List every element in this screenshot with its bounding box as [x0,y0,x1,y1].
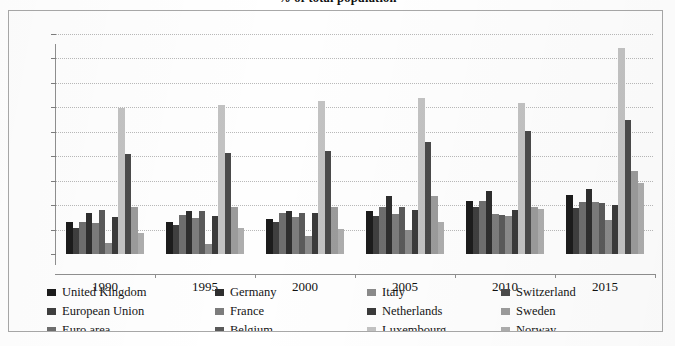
legend-swatch-icon [215,289,224,296]
y-tick-mark [51,205,56,206]
gridline [55,58,653,59]
legend-item[interactable]: Netherlands [367,302,501,321]
legend-swatch-icon [367,327,376,332]
gridline [55,107,653,108]
gridline [55,205,653,206]
legend-swatch-icon [501,289,510,296]
bar [338,229,345,254]
legend-item[interactable]: Norway [501,321,651,332]
legend-swatch-icon [47,327,56,332]
legend-swatch-icon [47,308,56,315]
figure-frame: 051015202530354045 199019952000200520102… [8,10,663,332]
bar [438,222,445,254]
legend-item[interactable]: Euro area [47,321,215,332]
legend-item[interactable]: Italy [367,283,501,302]
legend-label: Germany [230,286,277,299]
bar-group [66,34,144,254]
legend-item[interactable]: France [215,302,367,321]
legend-label: Netherlands [382,305,442,318]
plot-inner: 051015202530354045 199019952000200520102… [55,34,655,254]
legend-item[interactable]: Luxembourg [367,321,501,332]
bar-group [166,34,244,254]
chart-legend: United KingdomGermanyItalySwitzerlandEur… [19,283,659,332]
legend-swatch-icon [367,289,376,296]
legend-item[interactable]: Switzerland [501,283,651,302]
bar-group [266,34,344,254]
x-tick-mark [555,274,556,278]
legend-label: Luxembourg [382,324,446,332]
legend-item[interactable]: European Union [47,302,215,321]
legend-label: Switzerland [516,286,576,299]
legend-label: France [230,305,264,318]
y-axis-spine [55,44,56,265]
y-tick-mark [51,83,56,84]
legend-label: Norway [516,324,556,332]
x-tick-mark [655,274,656,278]
bar-group [466,34,544,254]
y-tick-mark [51,107,56,108]
y-tick-mark [51,254,56,255]
x-tick-mark [155,274,156,278]
legend-item[interactable]: Germany [215,283,367,302]
legend-label: European Union [62,305,144,318]
y-tick-mark [51,230,56,231]
legend-label: United Kingdom [62,286,146,299]
page-title: % of total population [0,0,675,6]
y-tick-mark [51,58,56,59]
gridline [55,230,653,231]
legend-item[interactable]: Sweden [501,302,651,321]
legend-label: Euro area [62,324,110,332]
legend-label: Sweden [516,305,556,318]
gridline [55,132,653,133]
y-tick-mark [51,156,56,157]
gridline [55,156,653,157]
legend-item[interactable]: Belgium [215,321,367,332]
legend-swatch-icon [215,327,224,332]
bar [538,209,545,254]
legend-swatch-icon [501,308,510,315]
plot-area: 051015202530354045 199019952000200520102… [55,24,655,254]
x-tick-mark [355,274,356,278]
y-tick-mark [51,34,56,35]
bar [638,183,645,254]
legend-item[interactable]: United Kingdom [47,283,215,302]
bar-group [366,34,444,254]
legend-swatch-icon [501,327,510,332]
legend-swatch-icon [47,289,56,296]
legend-swatch-icon [215,308,224,315]
x-tick-mark [455,274,456,278]
bar [238,228,245,254]
legend-label: Belgium [230,324,273,332]
bar [138,233,145,254]
legend-label: Italy [382,286,405,299]
gridline [55,34,653,35]
y-tick-mark [51,181,56,182]
x-tick-mark [255,274,256,278]
gridline [55,83,653,84]
y-tick-mark [51,132,56,133]
gridline [55,181,653,182]
bar-group [566,34,644,254]
legend-swatch-icon [367,308,376,315]
